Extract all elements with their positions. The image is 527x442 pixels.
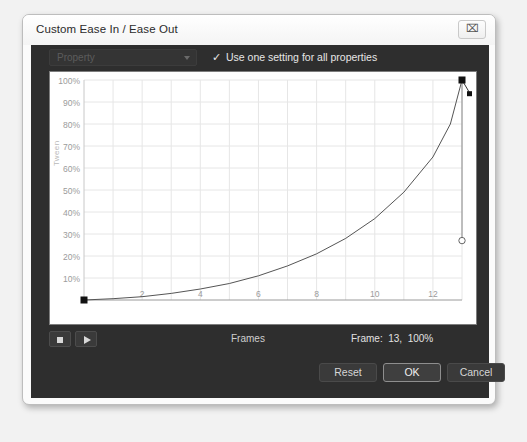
play-button[interactable] — [75, 331, 97, 347]
svg-text:8: 8 — [314, 289, 319, 299]
start-anchor[interactable] — [81, 297, 88, 304]
svg-text:100%: 100% — [58, 76, 80, 86]
ease-curve-chart[interactable]: 10%20%30%40%50%60%70%80%90%100% 24681012 — [50, 72, 476, 324]
play-icon — [84, 336, 91, 344]
svg-text:70%: 70% — [63, 142, 80, 152]
dialog-button-bar: Reset OK Cancel — [31, 357, 489, 391]
transport-row: Frames Frame: 13, 100% — [31, 328, 489, 352]
svg-text:30%: 30% — [63, 230, 80, 240]
svg-text:80%: 80% — [63, 120, 80, 130]
use-one-setting-label: Use one setting for all properties — [226, 51, 377, 63]
options-row: Property ✓ Use one setting for all prope… — [31, 45, 489, 71]
tangent-handle-lines — [462, 80, 471, 241]
y-axis-title: Tween — [52, 140, 61, 166]
checkmark-icon: ✓ — [211, 52, 221, 62]
chevron-down-icon — [184, 56, 190, 60]
dialog-titlebar: Custom Ease In / Ease Out ⌧ — [23, 15, 495, 45]
svg-text:60%: 60% — [63, 164, 80, 174]
property-dropdown[interactable]: Property — [49, 49, 197, 66]
dialog-title: Custom Ease In / Ease Out — [36, 23, 178, 35]
property-dropdown-label: Property — [57, 52, 95, 63]
svg-text:4: 4 — [198, 289, 203, 299]
dialog-body: Property ✓ Use one setting for all prope… — [31, 45, 489, 398]
y-axis-tick-labels: 10%20%30%40%50%60%70%80%90%100% — [58, 76, 80, 284]
svg-text:20%: 20% — [63, 252, 80, 262]
svg-text:12: 12 — [428, 289, 438, 299]
stop-button[interactable] — [49, 331, 71, 347]
x-axis-tick-labels: 24681012 — [140, 289, 438, 299]
close-icon[interactable]: ⌧ — [458, 20, 486, 39]
lower-control-point[interactable] — [459, 237, 465, 243]
reset-button[interactable]: Reset — [319, 363, 377, 382]
ok-button[interactable]: OK — [383, 363, 441, 382]
use-one-setting-checkbox[interactable]: ✓ Use one setting for all properties — [211, 49, 377, 65]
svg-text:10: 10 — [370, 289, 380, 299]
frames-axis-label: Frames — [231, 333, 265, 344]
tangent-handle[interactable] — [467, 91, 472, 96]
svg-text:90%: 90% — [63, 98, 80, 108]
svg-text:10%: 10% — [63, 274, 80, 284]
svg-text:6: 6 — [256, 289, 261, 299]
svg-text:50%: 50% — [63, 186, 80, 196]
end-anchor[interactable] — [459, 77, 466, 84]
ease-graph-panel[interactable]: Tween 10%20%30%40%50%60%70%80%90%100% 24… — [49, 71, 477, 325]
custom-ease-dialog: Custom Ease In / Ease Out ⌧ Property ✓ U… — [22, 14, 496, 405]
cancel-button[interactable]: Cancel — [447, 363, 505, 382]
stop-icon — [57, 337, 63, 343]
svg-text:2: 2 — [140, 289, 145, 299]
frame-status-readout: Frame: 13, 100% — [351, 333, 433, 344]
svg-text:40%: 40% — [63, 208, 80, 218]
